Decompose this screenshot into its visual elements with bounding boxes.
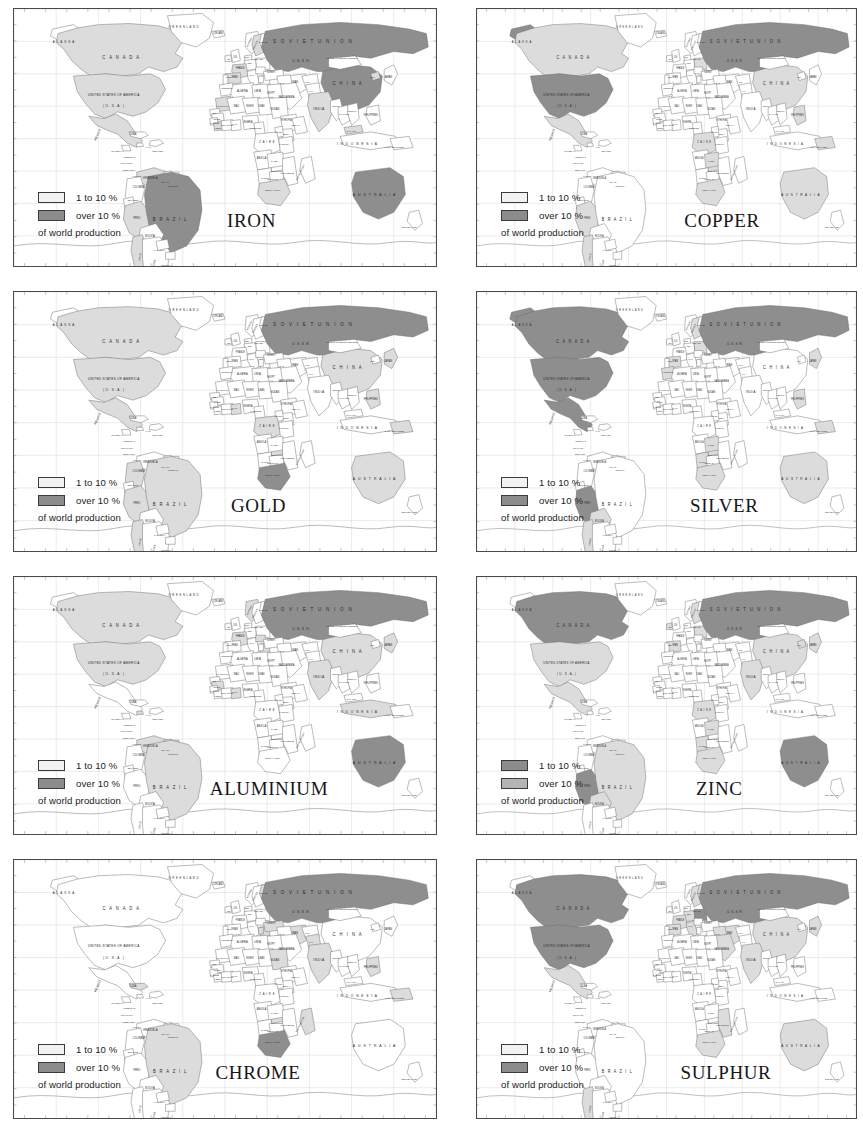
legend-row-low: 1 to 10 % [501, 192, 584, 203]
label-brazil: B R A Z I L [602, 785, 633, 791]
label-nigeria: NIGERIA [243, 972, 252, 975]
label-vietnam: VIETNAM [776, 678, 785, 680]
label-finland: FINLAND [259, 608, 268, 610]
label-soviet: S O V I E T U N I O N [273, 320, 354, 326]
label-poland: POLAND [693, 342, 701, 344]
label-safrica: SOUTH AFRICA [265, 473, 281, 475]
label-kenya: KENYA [283, 133, 290, 135]
label-guyana: GUYANA [609, 181, 617, 183]
label-tanzania: TANZANIA [715, 711, 725, 713]
label-nigeria: NIGERIA [683, 121, 692, 123]
label-thailand: THAILAND [339, 397, 350, 399]
label-kenya: KENYA [283, 417, 290, 419]
legend-swatch-low [38, 477, 65, 488]
label-egypt: EGYPT [267, 943, 275, 946]
label-sudan: SUDAN [271, 674, 280, 678]
label-guyana: GUYANA [161, 749, 170, 751]
label-egypt: EGYPT [267, 660, 275, 663]
label-bolivia: BOLIVIA [145, 1086, 155, 1090]
label-ghana: GHANA [231, 975, 238, 977]
label-senegal: SEN. [212, 963, 217, 965]
label-ireland: IRE. [668, 342, 672, 344]
label-finland: FINLAND [259, 892, 268, 894]
legend-row-low: 1 to 10 % [38, 192, 121, 203]
label-cuba: CUBA [581, 983, 587, 987]
country-south_africa [696, 747, 725, 774]
label-japan: JAPAN [384, 926, 392, 930]
label-japan: JAPAN [809, 926, 816, 930]
label-safrica: SOUTH AFRICA [265, 757, 281, 759]
label-venezuela: VENEZUELA [593, 460, 606, 464]
label-ireland: IRE. [227, 626, 231, 628]
label-bolivia: BOLIVIA [595, 518, 604, 522]
label-uk: U.K. [233, 907, 238, 910]
label-liberia: LIBERIA [215, 126, 223, 128]
label-morocco: MOROCCO [221, 371, 232, 373]
label-usa2: ( U . S . A . ) [103, 388, 124, 392]
label-brazil: B R A Z I L [153, 502, 188, 507]
label-haiti: HAITI [595, 145, 600, 147]
legend-swatch-low [501, 1044, 528, 1055]
label-australia: A U S T R A L I A [353, 477, 397, 481]
legend-swatch-high [501, 1062, 528, 1073]
label-denmark: DEN. [245, 339, 250, 341]
label-botswana: BOTSWANA [268, 462, 279, 464]
map-title-iron: IRON [227, 210, 276, 232]
label-sierra: S. LEONE [653, 406, 661, 408]
legend-row-high: over 10 % [38, 778, 121, 789]
legend-swatch-low [38, 192, 65, 203]
label-mozambique: MOZAMBIQUE [716, 172, 729, 174]
label-venezuela: VENEZUELA [143, 744, 158, 748]
label-korea: KOR. [370, 360, 375, 362]
label-pakistan: PAK. [309, 658, 314, 660]
label-surinam: SURINAM [616, 1036, 625, 1038]
label-burma: BURMA [332, 957, 340, 959]
label-malaysia: MALAYSIA [346, 130, 357, 132]
label-iraq: IRAQ [279, 933, 284, 935]
label-nigeria: NIGERIA [683, 972, 692, 974]
label-egypt: EGYPT [267, 92, 275, 95]
label-sudan: SUDAN [707, 106, 715, 110]
label-mali: MALI [234, 105, 240, 108]
map-panel-aluminium: A L A S K AC A N A D AUNITED STATES OF A… [0, 568, 443, 848]
label-guatemala: GUATEMALA [111, 718, 124, 720]
country-vietnam [777, 387, 787, 410]
label-uruguay: URUGUAY [609, 264, 619, 266]
label-italy: ITALY [249, 642, 255, 644]
label-turkey: TURKEY [704, 638, 713, 641]
label-surinam: SURINAM [616, 184, 625, 186]
label-usa2: ( U . S . A . ) [557, 388, 576, 392]
country-canada [56, 875, 183, 928]
label-sierra: S. LEONE [210, 122, 219, 124]
label-greenland: G R E E N L A N D [616, 308, 643, 312]
label-libya: LIBYA [693, 372, 699, 376]
label-sierra: S. LEONE [653, 690, 661, 692]
label-png: PAPUA NEW GUINEA [810, 713, 828, 715]
label-denmark: DEN. [684, 339, 688, 341]
label-morocco: MOROCCO [663, 371, 673, 373]
label-pakistan: PAK. [742, 373, 746, 375]
label-ethiopia: ETHIOPIA [281, 402, 292, 405]
label-soviet: S O V I E T U N I O N [273, 888, 354, 894]
label-philippines: PHILIPPINES [791, 682, 804, 685]
label-ghana: GHANA [231, 691, 238, 693]
label-iraq: IRAQ [715, 650, 720, 652]
map-frame-iron: A L A S K AC A N A D AUNITED STATES OF A… [13, 8, 437, 267]
label-germany: GER. [687, 630, 692, 632]
label-ussr: U.S.S.R. [727, 342, 744, 346]
label-kenya: KENYA [718, 985, 725, 987]
label-guyana: GUYANA [609, 1033, 617, 1035]
label-france: FRANCE [676, 918, 685, 920]
label-australia: A U S T R A L I A [353, 760, 397, 764]
label-india: INDIA [313, 958, 325, 962]
label-morocco: MOROCCO [663, 87, 673, 89]
label-sudan: SUDAN [271, 390, 280, 394]
legend-row-high: over 10 % [501, 1062, 584, 1073]
label-france: FRANCE [236, 635, 245, 638]
map-frame-chrome: A L A S K AC A N A D AUNITED STATES OF A… [13, 859, 437, 1119]
label-philippines: PHILIPPINES [364, 398, 378, 401]
country-uruguay [613, 536, 622, 544]
label-nz: NEW ZEALAND [825, 226, 839, 228]
legend-swatch-low [501, 760, 528, 771]
label-tanzania: TANZANIA [715, 995, 725, 997]
